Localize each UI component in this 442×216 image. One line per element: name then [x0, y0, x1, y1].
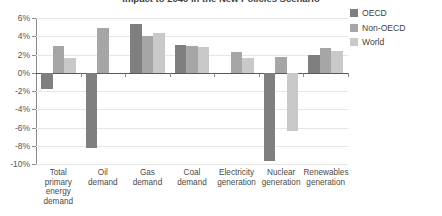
- bar-group: [81, 18, 126, 164]
- bar-group: [214, 18, 259, 164]
- bar-group: [170, 18, 215, 164]
- x-axis-category-line: demand: [81, 178, 126, 188]
- legend-item-world[interactable]: World: [350, 37, 438, 47]
- bar-world: [153, 33, 165, 73]
- x-axis-category-line: Renewables: [303, 168, 348, 178]
- x-axis-category-label: Renewablesgeneration: [303, 168, 348, 187]
- y-axis-tick-label: 0%: [2, 68, 30, 78]
- legend-swatch-icon: [350, 24, 358, 32]
- y-axis-tick-label: -4%: [2, 104, 30, 114]
- legend-label: OECD: [362, 8, 387, 18]
- chart-legend: OECDNon-OECDWorld: [350, 8, 438, 52]
- y-axis-tick-label: 4%: [2, 31, 30, 41]
- bar-non-oecd: [320, 48, 332, 73]
- bar-non-oecd: [97, 28, 109, 73]
- x-axis-category-line: energy: [36, 187, 81, 197]
- bar-group: [303, 18, 348, 164]
- bar-oecd: [41, 73, 53, 89]
- bar-group: [125, 18, 170, 164]
- bar-world: [198, 47, 210, 73]
- legend-swatch-icon: [350, 38, 358, 46]
- legend-swatch-icon: [350, 9, 358, 17]
- x-axis-category-label: Gasdemand: [125, 168, 170, 187]
- x-axis-category-line: generation: [303, 178, 348, 188]
- y-axis-tick-label: -2%: [2, 86, 30, 96]
- bar-world: [331, 51, 343, 73]
- legend-label: Non-OECD: [362, 23, 405, 33]
- x-axis-category-line: Electricity: [214, 168, 259, 178]
- x-axis-category-label: Nucleargeneration: [259, 168, 304, 187]
- x-axis-category-line: demand: [170, 178, 215, 188]
- bar-world: [64, 58, 76, 73]
- x-axis-category-line: demand: [36, 197, 81, 207]
- x-axis-category-line: Oil: [81, 168, 126, 178]
- bar-group: [36, 18, 81, 164]
- bar-oecd: [264, 73, 276, 162]
- plot-area: [36, 18, 348, 164]
- y-axis-tick-label: -10%: [2, 159, 30, 169]
- x-axis-category-line: demand: [125, 178, 170, 188]
- y-axis-tick-label: 2%: [2, 50, 30, 60]
- x-axis-category-line: generation: [214, 178, 259, 188]
- x-axis-tick: [348, 73, 349, 77]
- bar-non-oecd: [186, 46, 198, 72]
- bar-non-oecd: [231, 52, 243, 73]
- bar-oecd: [86, 73, 98, 148]
- bar-chart: Impact to 2040 in the New Policies Scena…: [0, 0, 442, 216]
- x-axis-category-label: Totalprimaryenergydemand: [36, 168, 81, 206]
- legend-item-non-oecd[interactable]: Non-OECD: [350, 23, 438, 33]
- bar-oecd: [175, 45, 187, 72]
- y-axis-tick-label: 6%: [2, 13, 30, 23]
- legend-item-oecd[interactable]: OECD: [350, 8, 438, 18]
- x-axis-category-line: primary: [36, 178, 81, 188]
- x-axis-category-line: Gas: [125, 168, 170, 178]
- bar-non-oecd: [53, 46, 65, 72]
- bar-group: [259, 18, 304, 164]
- bar-world: [287, 73, 299, 131]
- x-axis-category-label: Electricitygeneration: [214, 168, 259, 187]
- x-axis-category-line: Total: [36, 168, 81, 178]
- x-axis-category-label: Coaldemand: [170, 168, 215, 187]
- gridline: [36, 164, 348, 165]
- x-axis-category-line: Nuclear: [259, 168, 304, 178]
- bar-world: [242, 58, 254, 73]
- x-axis-category-line: generation: [259, 178, 304, 188]
- x-axis-category-line: Coal: [170, 168, 215, 178]
- bar-oecd: [130, 24, 142, 72]
- y-axis-tick-label: -8%: [2, 141, 30, 151]
- y-axis-tick-label: -6%: [2, 123, 30, 133]
- bar-non-oecd: [142, 36, 154, 73]
- x-axis-labels: TotalprimaryenergydemandOildemandGasdema…: [36, 168, 348, 216]
- legend-label: World: [362, 37, 384, 47]
- bar-non-oecd: [275, 57, 287, 73]
- x-axis-category-label: Oildemand: [81, 168, 126, 187]
- bar-oecd: [308, 55, 320, 73]
